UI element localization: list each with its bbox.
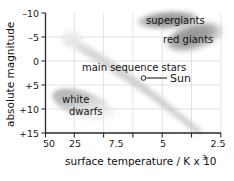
y-tick-label-1: –5	[28, 32, 39, 43]
sun-label: Sun	[170, 72, 191, 85]
hr-diagram-figure: –10 –5 0 +5 +10 +15 50 25 7.5 5 2.5 surf…	[0, 0, 234, 181]
x-tick-label-2: 7.5	[108, 138, 123, 149]
white-dwarfs-label-line1: white	[62, 94, 89, 105]
white-dwarfs-label-line2: dwarfs	[69, 106, 103, 117]
supergiants-label: supergiants	[146, 15, 205, 26]
y-tick-label-3: +5	[25, 80, 39, 91]
x-tick-label-1: 25	[69, 138, 81, 149]
red-giants-label: red giants	[163, 34, 213, 45]
sun-marker-icon	[141, 76, 146, 81]
y-tick-label-5: +15	[19, 128, 39, 139]
x-axis-title: surface temperature / K x 10	[65, 155, 217, 167]
x-tick-label-4: 2.5	[210, 138, 225, 149]
y-tick-label-4: +10	[19, 104, 39, 115]
y-tick-label-0: –10	[22, 8, 39, 19]
x-axis-ticks	[46, 133, 221, 138]
y-tick-label-2: 0	[33, 56, 39, 67]
hr-diagram-svg: –10 –5 0 +5 +10 +15 50 25 7.5 5 2.5 surf…	[0, 0, 234, 181]
x-tick-label-0: 50	[43, 138, 55, 149]
x-axis-title-exponent: 3	[202, 154, 206, 162]
y-axis-title: absolute magnitude	[4, 22, 16, 127]
x-tick-label-3: 5	[160, 138, 166, 149]
